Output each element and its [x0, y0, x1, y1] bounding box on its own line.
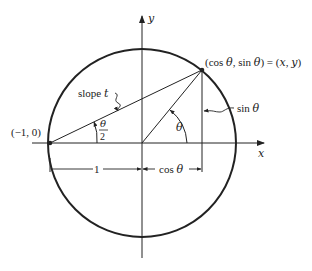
- theta-label: θ: [176, 121, 183, 134]
- radius-line: [142, 70, 202, 143]
- slope-t: t: [104, 87, 109, 100]
- x-axis-label: x: [258, 147, 265, 160]
- left-point-label: (−1, 0): [11, 126, 41, 139]
- half-theta-den: 2: [100, 131, 105, 142]
- dim-one-label: 1: [94, 163, 100, 175]
- left-point-dot: [48, 141, 53, 146]
- slope-leader: [115, 93, 120, 111]
- point-p-label: (cos θ, sin θ) = (x, y): [205, 56, 301, 69]
- point-p-dot: [200, 68, 205, 73]
- dim-cos-label: cos θ: [159, 163, 183, 176]
- slope-label: slope t: [78, 87, 109, 100]
- half-theta-num: θ: [100, 118, 106, 129]
- unit-circle-diagram: x y θ θ 2 slope t sin θ (−1, 0) (cos θ, …: [0, 0, 312, 271]
- half-theta-arc: [94, 122, 97, 143]
- y-axis-label: y: [147, 12, 155, 25]
- sin-label: sin θ: [237, 102, 260, 115]
- slope-word: slope: [78, 87, 104, 99]
